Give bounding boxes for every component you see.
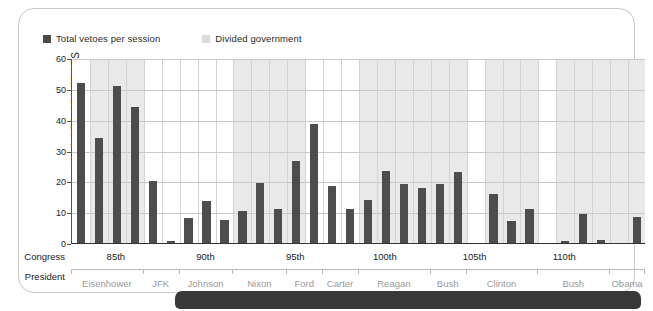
president-label: Clinton: [487, 278, 517, 289]
president-axis-tick: [609, 269, 610, 274]
bottom-banner: [175, 291, 641, 309]
bar: [167, 241, 175, 243]
y-axis-tick-mark: [67, 182, 71, 183]
y-axis-tick-label: 10: [56, 208, 66, 218]
plot-area-wrapper: Congress 85th90th95th100th105th110th Pre…: [71, 59, 645, 244]
president-label: Nixon: [247, 278, 271, 289]
legend-label-divided-government: Divided government: [215, 33, 301, 44]
bar: [507, 221, 515, 243]
bar: [292, 161, 300, 243]
bar: [489, 194, 497, 243]
screenshot-root: Total vetoes per session Divided governm…: [0, 0, 653, 311]
president-label: Carter: [327, 278, 353, 289]
y-axis-tick-mark: [67, 121, 71, 122]
president-axis-tick: [466, 269, 467, 274]
y-axis-tick-mark: [67, 213, 71, 214]
legend-item-divided-government: Divided government: [202, 33, 301, 44]
y-axis-tick-mark: [67, 90, 71, 91]
bar: [95, 138, 103, 243]
y-axis-tick-mark: [67, 59, 71, 60]
president-axis-tick: [71, 269, 72, 274]
legend-label-total-vetoes: Total vetoes per session: [56, 33, 160, 44]
president-axis-tick: [232, 269, 233, 274]
bar: [131, 107, 139, 243]
bar: [579, 214, 587, 243]
congress-row-label: Congress: [24, 251, 65, 262]
y-axis-tick-mark: [67, 244, 71, 245]
legend-swatch-icon-total-vetoes: [43, 35, 51, 43]
plot-area: [71, 59, 645, 244]
president-axis-tick: [179, 269, 180, 274]
president-label: Obama: [611, 278, 642, 289]
grid-line-horizontal: [72, 90, 645, 91]
bar: [256, 183, 264, 243]
bar: [113, 86, 121, 243]
president-axis-tick: [358, 269, 359, 274]
grid-line-horizontal: [72, 121, 645, 122]
bar: [328, 186, 336, 243]
congress-tick-label: 100th: [373, 251, 397, 262]
congress-tick-label: 105th: [463, 251, 487, 262]
president-label: Johnson: [188, 278, 224, 289]
president-label: Bush: [437, 278, 459, 289]
y-axis-tick-label: 30: [56, 147, 66, 157]
grid-line-horizontal: [72, 182, 645, 183]
bar: [364, 200, 372, 243]
bar: [346, 209, 354, 243]
y-axis-tick-mark: [67, 152, 71, 153]
congress-tick-label: 110th: [553, 251, 576, 262]
congress-tick-label: 90th: [196, 251, 215, 262]
bar: [561, 241, 569, 243]
y-axis-tick-label: 60: [56, 54, 66, 64]
y-axis-tick-label: 20: [56, 177, 66, 187]
bar: [597, 240, 605, 243]
congress-tick-label: 85th: [107, 251, 126, 262]
bar: [418, 188, 426, 244]
bar: [310, 124, 318, 243]
bar: [525, 209, 533, 243]
bar: [454, 172, 462, 243]
president-axis-tick: [537, 269, 538, 274]
president-label: Ford: [294, 278, 314, 289]
bar: [184, 218, 192, 243]
bar: [77, 83, 85, 243]
president-label: Reagan: [377, 278, 410, 289]
president-label: JFK: [152, 278, 169, 289]
grid-line-horizontal: [72, 152, 645, 153]
grid-line-horizontal: [72, 59, 645, 60]
president-row-label: President: [25, 271, 65, 282]
bar: [202, 201, 210, 243]
president-axis-tick: [322, 269, 323, 274]
president-label: Bush: [562, 278, 584, 289]
bar: [436, 184, 444, 243]
grid-line-horizontal: [72, 213, 645, 214]
bar: [382, 171, 390, 243]
bar: [220, 220, 228, 243]
bar: [633, 217, 641, 243]
president-axis-tick: [430, 269, 431, 274]
chart-card: Total vetoes per session Divided governm…: [18, 8, 635, 293]
bar: [149, 181, 157, 243]
legend-item-total-vetoes: Total vetoes per session: [43, 33, 160, 44]
y-axis-tick-label: 40: [56, 116, 66, 126]
president-label: Eisenhower: [82, 278, 132, 289]
president-axis-tick: [286, 269, 287, 274]
legend-swatch-icon-divided-government: [202, 35, 210, 43]
bar: [274, 209, 282, 243]
congress-tick-label: 95th: [286, 251, 305, 262]
president-axis-tick-end: [644, 269, 645, 274]
y-axis-tick-label: 0: [61, 239, 66, 249]
congress-axis-row: Congress 85th90th95th100th105th110th: [71, 249, 645, 267]
bar: [238, 211, 246, 243]
bar: [400, 184, 408, 243]
y-axis-tick-label: 50: [56, 85, 66, 95]
chart-legend: Total vetoes per session Divided governm…: [43, 33, 302, 44]
president-axis-tick: [143, 269, 144, 274]
